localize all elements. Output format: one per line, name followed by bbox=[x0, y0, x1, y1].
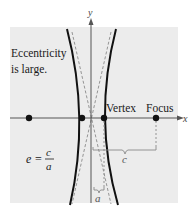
a-label: a bbox=[95, 192, 101, 204]
formula-lhs: e bbox=[26, 152, 32, 166]
x-axis-label: x bbox=[182, 113, 188, 124]
y-axis-label: y bbox=[87, 7, 93, 18]
right-vertex-point bbox=[101, 115, 107, 121]
annotation-line-1: Eccentricity bbox=[11, 47, 67, 60]
annotation-line-2: is large. bbox=[11, 63, 47, 76]
focus-label: Focus bbox=[146, 102, 174, 114]
formula-equals: = bbox=[35, 152, 42, 166]
left-focus-point bbox=[26, 115, 32, 121]
c-label: c bbox=[122, 153, 127, 165]
left-vertex-point bbox=[79, 115, 85, 121]
hyperbola-eccentricity-diagram: Eccentricity is large. Vertex Focus x y … bbox=[0, 0, 191, 218]
right-focus-point bbox=[153, 115, 159, 121]
y-axis-arrow-icon bbox=[89, 18, 94, 25]
formula-numerator: c bbox=[46, 146, 51, 158]
vertex-label: Vertex bbox=[106, 102, 136, 114]
formula-denominator: a bbox=[46, 160, 52, 172]
